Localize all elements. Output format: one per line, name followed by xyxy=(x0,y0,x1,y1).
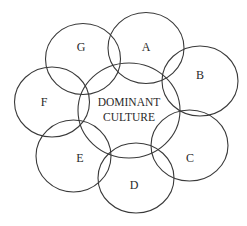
label-d: D xyxy=(130,178,139,192)
label-f: F xyxy=(41,95,48,109)
culture-diagram: G A B F E D C DOMINANT CULTURE xyxy=(0,0,247,226)
center-label-line1: DOMINANT xyxy=(98,96,161,108)
circle-d: D xyxy=(98,143,174,213)
center-label-line2: CULTURE xyxy=(103,111,155,123)
label-e: E xyxy=(76,151,83,165)
circle-a: A xyxy=(108,13,184,84)
circle-c: C xyxy=(151,110,228,181)
circle-b: B xyxy=(162,46,238,116)
label-a: A xyxy=(142,40,151,54)
label-b: B xyxy=(196,68,204,82)
label-c: C xyxy=(186,151,194,165)
label-g: G xyxy=(77,40,86,54)
